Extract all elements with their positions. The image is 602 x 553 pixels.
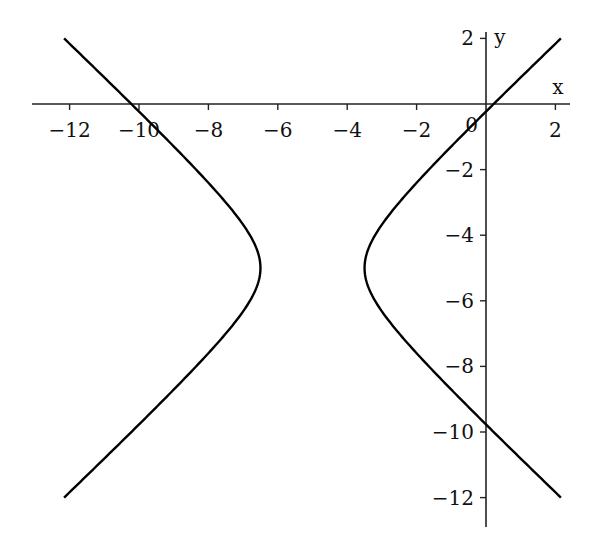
x-tick-label: −6 (263, 118, 292, 142)
y-tick-label: −8 (445, 354, 474, 378)
x-tick-label: −2 (402, 118, 431, 142)
y-tick-label: −2 (445, 158, 474, 182)
x-tick-label: −10 (118, 118, 160, 142)
x-tick-label: −4 (332, 118, 361, 142)
ticks (70, 38, 556, 497)
y-tick-label: 2 (461, 26, 474, 50)
y-tick-label: −6 (445, 289, 474, 313)
y-tick-label: −10 (432, 420, 474, 444)
hyperbola-chart: −12−10−8−6−4−222−2−4−6−8−10−120xy (0, 0, 602, 553)
x-tick-label: −12 (48, 118, 90, 142)
x-tick-label: 2 (549, 118, 562, 142)
x-axis-label: x (552, 75, 564, 99)
axes (32, 32, 570, 527)
x-tick-label: −8 (194, 118, 223, 142)
y-tick-label: −12 (432, 486, 474, 510)
y-tick-label: −4 (445, 223, 474, 247)
y-axis-label: y (493, 25, 506, 49)
hyperbola-left-branch (64, 38, 260, 497)
